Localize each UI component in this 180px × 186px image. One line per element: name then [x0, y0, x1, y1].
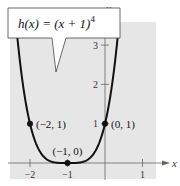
function-label-exponent: 4 [90, 14, 95, 24]
point-marker [65, 160, 71, 166]
point-marker [27, 121, 33, 127]
y-tick-label: 1 [93, 118, 98, 129]
x-tick-label: −1 [62, 169, 73, 180]
function-label: h(x) = (x + 1)4 [18, 14, 95, 31]
y-tick-label: 2 [93, 79, 98, 90]
point-label: (−2, 1) [36, 118, 66, 131]
x-axis-arrow [162, 161, 170, 166]
x-axis-label: x [171, 157, 177, 169]
point-marker [102, 121, 108, 127]
x-tick-label: −2 [25, 169, 36, 180]
y-tick-label: 3 [93, 40, 98, 51]
plot-background [10, 22, 156, 179]
x-tick-label: 1 [140, 169, 145, 180]
function-graph: xy−2−11123 (−2, 1)(−1, 0)(0, 1) h(x) = (… [0, 0, 180, 186]
point-label: (−1, 0) [52, 145, 82, 158]
point-label: (0, 1) [111, 118, 135, 131]
function-label-main: h(x) = (x + 1) [18, 16, 90, 31]
